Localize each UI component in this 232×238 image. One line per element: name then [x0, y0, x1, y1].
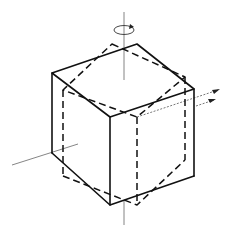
cube-rotation-diagram [0, 0, 232, 238]
solid-cube [52, 44, 194, 205]
double-arrow-icon [137, 89, 220, 117]
horizontal-axis [12, 144, 78, 165]
